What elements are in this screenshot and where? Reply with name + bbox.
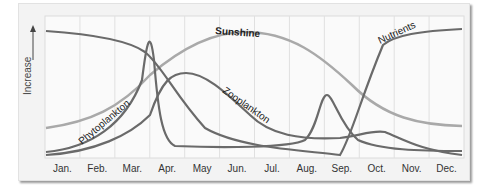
month-label: Jan.	[53, 163, 72, 174]
month-label: Jun.	[228, 163, 247, 174]
month-label: Oct.	[368, 163, 386, 174]
chart-svg: Sunshine Nutrients Phytoplankton Zooplan…	[0, 0, 495, 188]
month-label: Nov.	[402, 163, 422, 174]
month-label: Feb.	[87, 163, 107, 174]
month-label: Apr.	[158, 163, 176, 174]
month-label: Dec.	[436, 163, 457, 174]
month-label: Sep.	[332, 163, 353, 174]
month-label: Mar.	[123, 163, 142, 174]
month-label: Jul.	[264, 163, 280, 174]
arrow-up-icon	[30, 25, 36, 32]
x-axis-tick-labels: Jan.Feb.Mar.Apr.MayJun.Jul.Aug.Sep.Oct.N…	[53, 163, 457, 174]
month-label: May	[193, 163, 212, 174]
month-label: Aug.	[297, 163, 318, 174]
